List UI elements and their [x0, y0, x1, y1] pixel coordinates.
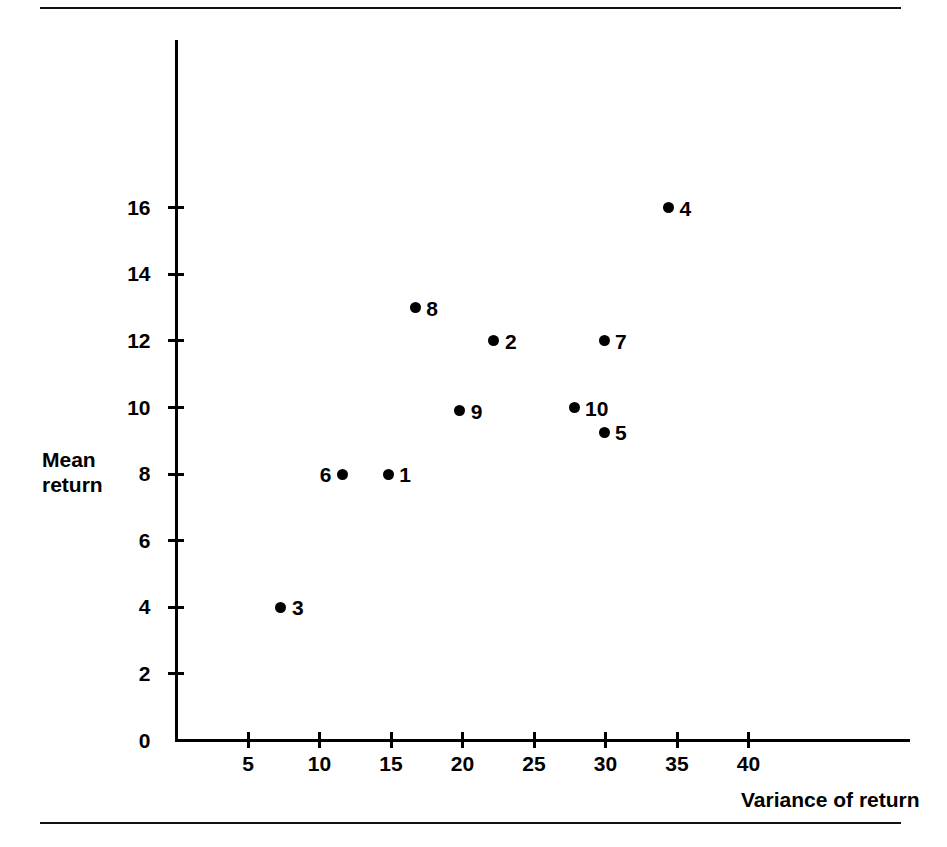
y-axis-line — [175, 40, 178, 741]
y-tick-mark — [168, 206, 184, 209]
x-tick-mark — [461, 732, 464, 748]
x-axis-title: Variance of return — [741, 789, 920, 810]
data-point-label: 8 — [426, 298, 438, 319]
data-point-marker[interactable] — [454, 405, 465, 416]
y-tick-label: 4 — [91, 596, 151, 617]
y-tick-mark — [168, 539, 184, 542]
y-tick-mark — [168, 406, 184, 409]
x-tick-label: 20 — [433, 753, 493, 774]
y-tick-mark — [168, 473, 184, 476]
data-point-label: 4 — [679, 198, 691, 219]
x-tick-mark — [676, 732, 679, 748]
y-tick-label: 14 — [91, 263, 151, 284]
y-tick-label: 10 — [91, 397, 151, 418]
data-point-marker[interactable] — [488, 335, 499, 346]
data-point-label: 7 — [615, 331, 627, 352]
y-tick-label: 12 — [91, 330, 151, 351]
x-tick-label: 25 — [504, 753, 564, 774]
x-tick-label: 10 — [290, 753, 350, 774]
data-point-label: 3 — [292, 597, 304, 618]
data-point-label: 9 — [471, 401, 483, 422]
data-point-label: 5 — [615, 422, 627, 443]
y-tick-label: 2 — [91, 663, 151, 684]
data-point-label: 6 — [320, 464, 332, 485]
data-point-marker[interactable] — [275, 602, 286, 613]
x-tick-label: 30 — [576, 753, 636, 774]
x-axis-line — [175, 739, 910, 742]
data-point-marker[interactable] — [599, 335, 610, 346]
data-point-marker[interactable] — [663, 202, 674, 213]
y-axis-title: Mean return — [42, 447, 103, 497]
y-tick-label: 0 — [91, 730, 151, 751]
scatter-plot: 0246810121416 510152025303540 1234567891… — [0, 0, 947, 847]
figure: 0246810121416 510152025303540 1234567891… — [0, 0, 947, 847]
y-tick-mark — [168, 273, 184, 276]
data-point-marker[interactable] — [383, 469, 394, 480]
y-tick-mark — [168, 339, 184, 342]
x-tick-label: 35 — [647, 753, 707, 774]
x-tick-mark — [318, 732, 321, 748]
data-point-marker[interactable] — [569, 402, 580, 413]
x-tick-mark — [747, 732, 750, 748]
data-point-label: 1 — [399, 464, 411, 485]
x-tick-mark — [390, 732, 393, 748]
x-tick-mark — [533, 732, 536, 748]
x-tick-mark — [247, 732, 250, 748]
x-tick-label: 40 — [719, 753, 779, 774]
data-point-marker[interactable] — [337, 469, 348, 480]
y-tick-mark — [168, 606, 184, 609]
data-point-label: 10 — [585, 398, 608, 419]
x-tick-mark — [604, 732, 607, 748]
x-tick-label: 15 — [361, 753, 421, 774]
y-tick-mark — [168, 672, 184, 675]
y-tick-label: 6 — [91, 530, 151, 551]
data-point-marker[interactable] — [410, 302, 421, 313]
data-point-label: 2 — [505, 331, 517, 352]
x-tick-label: 5 — [218, 753, 278, 774]
data-point-marker[interactable] — [599, 427, 610, 438]
y-tick-label: 16 — [91, 197, 151, 218]
